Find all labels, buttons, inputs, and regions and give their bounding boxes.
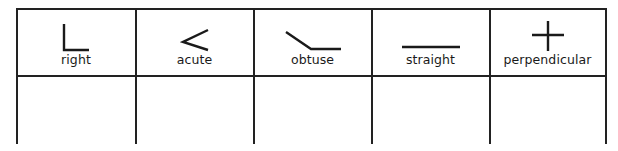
header-cell-perpendicular: perpendicular	[490, 10, 605, 76]
column-label: perpendicular	[503, 53, 591, 67]
column-label: obtuse	[291, 53, 334, 67]
column-divider	[605, 8, 607, 144]
header-cell-obtuse: obtuse	[254, 10, 371, 76]
angle-types-table: right acute obtuse straight perpendicula…	[16, 8, 606, 144]
answer-cell-obtuse[interactable]	[255, 78, 371, 144]
column-label: acute	[177, 53, 213, 67]
acute-angle-icon	[180, 28, 210, 52]
right-angle-icon	[61, 22, 91, 52]
straight-line-icon	[401, 42, 461, 52]
answer-cell-acute[interactable]	[137, 78, 253, 144]
answer-cell-straight[interactable]	[373, 78, 489, 144]
obtuse-angle-icon	[283, 30, 343, 52]
column-label: right	[61, 53, 91, 67]
header-cell-straight: straight	[372, 10, 489, 76]
column-label: straight	[406, 53, 455, 67]
header-cell-right: right	[17, 10, 135, 76]
header-cell-acute: acute	[136, 10, 253, 76]
perpendicular-lines-icon	[530, 20, 566, 52]
answer-cell-right[interactable]	[18, 78, 135, 144]
answer-cell-perpendicular[interactable]	[491, 78, 605, 144]
